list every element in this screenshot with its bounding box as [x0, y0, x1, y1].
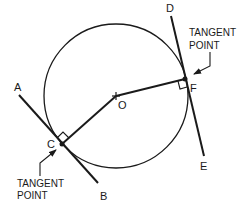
label-b: B [100, 190, 107, 202]
tangent-line-ab [19, 95, 98, 183]
callout-lower-line1: TANGENT [17, 178, 64, 189]
tangent-diagram: A B C D E F O TANGENT POINT TANGENT POIN… [0, 0, 251, 211]
callout-lower-line2: POINT [17, 190, 48, 201]
callout-upper-line1: TANGENT [189, 27, 236, 38]
label-f: F [190, 82, 197, 94]
label-e: E [200, 160, 207, 172]
callout-leader-lower [40, 150, 56, 176]
label-a: A [14, 81, 22, 93]
label-o: O [118, 99, 127, 111]
tangent-point-f [183, 77, 188, 82]
callout-leader-upper [194, 52, 210, 74]
radius-oc [62, 96, 116, 144]
right-angle-marker-c [57, 132, 69, 138]
tangent-point-c [60, 142, 65, 147]
radius-of [116, 79, 185, 96]
callout-upper-line2: POINT [189, 40, 220, 51]
label-c: C [47, 138, 55, 150]
label-d: D [166, 2, 174, 14]
